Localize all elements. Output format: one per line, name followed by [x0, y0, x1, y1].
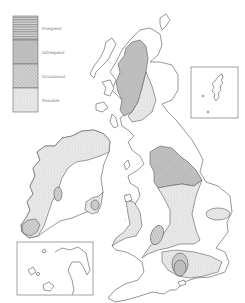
shetland-inset — [191, 67, 238, 118]
swatch-frequent — [13, 16, 38, 40]
legend-label-occasional: Occasional — [42, 74, 66, 79]
legend-item-possible: Possible — [13, 88, 60, 112]
distribution-map: Frequent Infrequent Occasional Possible — [0, 0, 245, 303]
legend-label-frequent: Frequent — [42, 26, 62, 31]
legend-item-infrequent: Infrequent — [13, 40, 65, 64]
swatch-possible — [13, 88, 38, 112]
south-infrequent-zone — [174, 260, 186, 276]
swatch-occasional — [13, 64, 38, 88]
ireland-occasional-east — [91, 200, 99, 210]
inset-island-b — [36, 272, 39, 275]
legend-item-occasional: Occasional — [13, 64, 66, 88]
anglesey — [124, 194, 132, 202]
legend-item-frequent: Frequent — [13, 16, 62, 40]
isle-of-man — [124, 160, 130, 170]
ireland — [21, 130, 110, 238]
east-anglia-possible-zone — [206, 208, 230, 220]
mull — [96, 102, 108, 112]
legend-label-possible: Possible — [42, 98, 60, 103]
map-legend: Frequent Infrequent Occasional Possible — [13, 16, 66, 112]
legend-label-infrequent: Infrequent — [42, 50, 65, 55]
skye — [102, 80, 114, 96]
islay-jura — [110, 114, 118, 128]
orkney — [160, 14, 170, 30]
channel-islands-inset — [17, 242, 93, 295]
swatch-infrequent — [13, 40, 38, 64]
foula — [207, 111, 209, 113]
ireland-occasional-west — [54, 187, 62, 201]
fair-isle — [202, 95, 204, 97]
